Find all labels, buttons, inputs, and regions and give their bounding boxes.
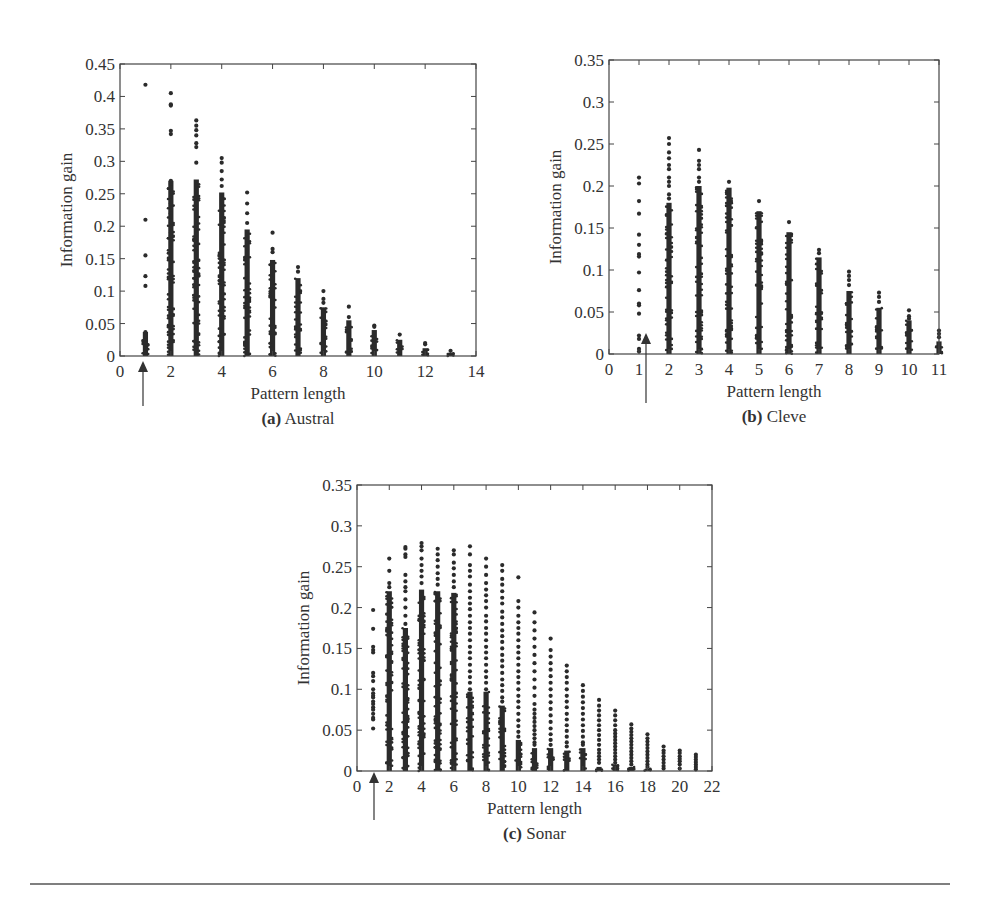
x-tick-label: 1 bbox=[635, 360, 644, 379]
data-column bbox=[268, 231, 276, 357]
data-column bbox=[466, 544, 474, 771]
figure-caption: (b) Cleve bbox=[742, 407, 807, 426]
x-tick-label: 2 bbox=[385, 777, 394, 796]
x-tick-label: 9 bbox=[875, 360, 884, 379]
x-tick-label: 10 bbox=[366, 362, 383, 381]
y-tick-label: 0.3 bbox=[331, 517, 352, 536]
x-tick-label: 0 bbox=[353, 777, 362, 796]
x-tick-label: 10 bbox=[901, 360, 918, 379]
y-tick-label: 0.4 bbox=[94, 87, 116, 106]
x-tick-label: 0 bbox=[605, 360, 614, 379]
figure: 0246810121400.050.10.150.20.250.30.350.4… bbox=[0, 0, 988, 897]
y-tick-label: 0.35 bbox=[574, 51, 604, 70]
x-tick-label: 6 bbox=[785, 360, 794, 379]
data-column bbox=[547, 637, 555, 771]
data-column bbox=[725, 180, 733, 354]
chart-sonar: 024681012141618202200.050.10.150.20.250.… bbox=[294, 476, 721, 843]
data-column bbox=[530, 610, 538, 771]
x-tick-label: 8 bbox=[482, 777, 491, 796]
x-tick-label: 8 bbox=[319, 362, 328, 381]
x-tick-label: 10 bbox=[510, 777, 527, 796]
y-tick-label: 0.1 bbox=[94, 282, 115, 301]
data-column bbox=[563, 663, 571, 771]
data-points bbox=[637, 136, 943, 355]
data-column bbox=[637, 176, 641, 354]
x-tick-label: 11 bbox=[931, 360, 947, 379]
y-tick-label: 0.1 bbox=[583, 261, 604, 280]
data-column bbox=[755, 199, 763, 354]
x-tick-label: 5 bbox=[755, 360, 764, 379]
data-column bbox=[665, 136, 673, 354]
x-tick-label: 2 bbox=[665, 360, 674, 379]
arrow-icon bbox=[369, 772, 379, 820]
data-column bbox=[192, 118, 200, 356]
y-tick-label: 0 bbox=[344, 762, 353, 781]
x-tick-label: 22 bbox=[704, 777, 721, 796]
chart-austral: 0246810121400.050.10.150.20.250.30.350.4… bbox=[57, 55, 485, 428]
plot-frame bbox=[609, 60, 939, 354]
data-column bbox=[498, 563, 506, 771]
y-tick-label: 0.05 bbox=[85, 315, 115, 334]
data-column bbox=[450, 548, 458, 771]
y-tick-label: 0.2 bbox=[331, 599, 352, 618]
y-tick-label: 0 bbox=[107, 347, 116, 366]
y-tick-label: 0.15 bbox=[574, 219, 604, 238]
x-axis: 01234567891011 bbox=[605, 60, 947, 379]
data-column bbox=[401, 545, 409, 771]
data-column bbox=[243, 190, 251, 357]
data-column bbox=[815, 248, 823, 354]
y-tick-label: 0.35 bbox=[85, 120, 115, 139]
y-tick-label: 0.3 bbox=[583, 93, 604, 112]
data-column bbox=[417, 541, 425, 772]
y-tick-label: 0.15 bbox=[322, 639, 352, 658]
x-tick-label: 20 bbox=[671, 777, 688, 796]
data-column bbox=[167, 91, 175, 356]
y-tick-label: 0.25 bbox=[85, 185, 115, 204]
y-axis-label: Information gain bbox=[546, 149, 565, 264]
x-tick-label: 14 bbox=[468, 362, 486, 381]
data-column bbox=[294, 265, 302, 356]
y-tick-label: 0.3 bbox=[94, 152, 115, 171]
x-axis-label: Pattern length bbox=[727, 382, 822, 401]
x-tick-label: 12 bbox=[542, 777, 559, 796]
data-column bbox=[514, 575, 522, 771]
y-tick-label: 0.15 bbox=[85, 250, 115, 269]
data-column bbox=[785, 220, 793, 355]
data-column bbox=[845, 270, 853, 354]
data-column bbox=[345, 305, 353, 356]
data-column bbox=[371, 608, 375, 731]
x-tick-label: 8 bbox=[845, 360, 854, 379]
y-tick-label: 0.25 bbox=[574, 135, 604, 154]
y-tick-label: 0.05 bbox=[322, 721, 352, 740]
chart-cleve: 0123456789101100.050.10.150.20.250.30.35… bbox=[546, 51, 947, 426]
data-column bbox=[611, 708, 619, 771]
y-tick-label: 0.25 bbox=[322, 558, 352, 577]
x-tick-label: 2 bbox=[167, 362, 176, 381]
data-column bbox=[482, 556, 490, 771]
data-column bbox=[579, 683, 587, 771]
data-column bbox=[385, 556, 393, 771]
data-column bbox=[694, 753, 698, 772]
data-column bbox=[141, 83, 149, 356]
data-column bbox=[218, 156, 226, 357]
x-tick-label: 3 bbox=[695, 360, 704, 379]
data-column bbox=[595, 698, 603, 772]
arrow-icon bbox=[138, 361, 148, 406]
x-tick-label: 6 bbox=[450, 777, 459, 796]
x-tick-label: 12 bbox=[417, 362, 434, 381]
data-points bbox=[371, 541, 698, 772]
figure-caption: (c) Sonar bbox=[503, 824, 566, 843]
x-tick-label: 4 bbox=[725, 360, 734, 379]
data-column bbox=[319, 289, 327, 356]
data-column bbox=[643, 732, 651, 772]
x-tick-label: 14 bbox=[574, 777, 592, 796]
y-axis: 00.050.10.150.20.250.30.350.40.45 bbox=[85, 55, 476, 366]
x-tick-label: 0 bbox=[116, 362, 125, 381]
x-tick-label: 4 bbox=[417, 777, 426, 796]
y-tick-label: 0.2 bbox=[94, 217, 115, 236]
y-tick-label: 0.05 bbox=[574, 303, 604, 322]
figure-caption: (a) Austral bbox=[261, 409, 334, 428]
data-column bbox=[905, 308, 913, 354]
x-tick-label: 7 bbox=[815, 360, 824, 379]
y-tick-label: 0 bbox=[596, 345, 605, 364]
